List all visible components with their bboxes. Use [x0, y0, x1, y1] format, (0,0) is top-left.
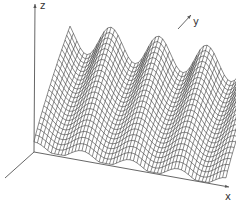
z-axis-line	[34, 4, 35, 152]
z-axis-arrowhead-icon	[33, 4, 36, 8]
mesh-line	[70, 26, 236, 82]
wireframe-mesh	[34, 26, 236, 182]
wave-surface-diagram	[0, 0, 236, 210]
negative-y-axis-line	[5, 152, 34, 178]
y-axis-label: y	[193, 17, 199, 27]
mesh-line	[41, 41, 77, 145]
mesh-line	[49, 90, 236, 138]
mesh-line	[109, 53, 145, 165]
mesh-line	[61, 44, 97, 156]
mesh-line	[157, 62, 193, 174]
mesh-line	[48, 53, 84, 151]
z-axis-label: z	[40, 1, 45, 11]
x-axis-arrowhead-icon	[225, 185, 229, 188]
x-axis-label: x	[225, 192, 231, 202]
